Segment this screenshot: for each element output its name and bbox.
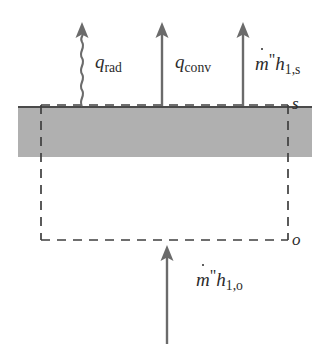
- q-conv-label: qconv: [175, 52, 211, 75]
- q-rad-wavy-shaft: [81, 33, 83, 106]
- mdot-h1s-subscript: 1,s: [285, 62, 301, 77]
- mdot-h1s-arrow: [237, 22, 250, 106]
- q-conv-subscript: conv: [185, 60, 212, 75]
- q-rad-subscript: rad: [105, 60, 122, 75]
- outer-state-label: o: [292, 231, 301, 248]
- heat-transfer-diagram: qrad qconv m"h1,s m"h1,o s o: [0, 0, 329, 344]
- mdot-h1s-label: m"h1,s: [255, 52, 300, 76]
- q-rad-label: qrad: [95, 52, 122, 75]
- q-rad-symbol: q: [95, 51, 105, 72]
- q-conv-arrow: [156, 22, 169, 106]
- liquid-layer-slab: [18, 107, 312, 157]
- mdot-symbol: m: [255, 54, 269, 73]
- enthalpy-symbol: h: [216, 269, 226, 290]
- surface-state-label: s: [292, 95, 299, 112]
- mdot-h1o-subscript: 1,o: [226, 278, 243, 293]
- mdot-symbol: m: [196, 270, 210, 289]
- enthalpy-symbol: h: [275, 53, 285, 74]
- q-rad-arrow: [76, 22, 89, 106]
- q-conv-symbol: q: [175, 51, 185, 72]
- mdot-h1o-arrow: [161, 245, 174, 344]
- mdot-h1o-label: m"h1,o: [196, 268, 243, 292]
